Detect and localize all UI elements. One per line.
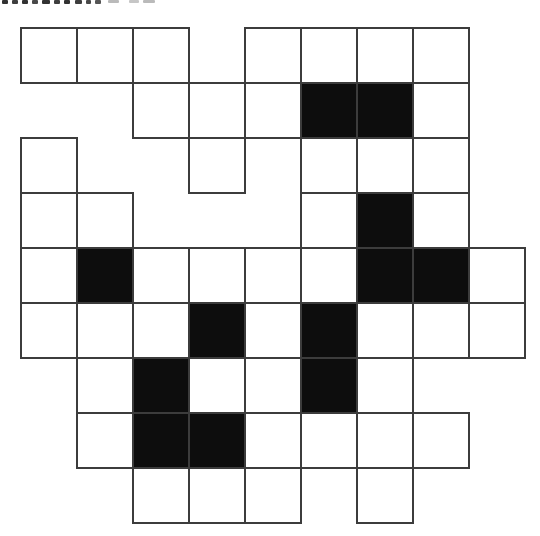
grid-cell-r4c0-white[interactable] [21, 248, 77, 303]
grid-cell-r1c4-white[interactable] [245, 83, 301, 138]
grid-cell-r3c7-white[interactable] [413, 193, 469, 248]
grid-cell-r7c2-black [133, 413, 189, 468]
grid-cell-r5c5-black [301, 303, 357, 358]
grid-cell-r1c7-white[interactable] [413, 83, 469, 138]
grid-cell-r7c3-black [189, 413, 245, 468]
grid-cell-r8c3-white[interactable] [189, 468, 245, 523]
grid-cell-r2c0-white[interactable] [21, 138, 77, 193]
grid-cell-r2c6-white[interactable] [357, 138, 413, 193]
grid-cell-r0c0-white[interactable] [21, 28, 77, 83]
grid-cell-r8c6-white[interactable] [357, 468, 413, 523]
grid-cell-r5c2-white[interactable] [133, 303, 189, 358]
grid-cell-r7c5-white[interactable] [301, 413, 357, 468]
grid-cell-r7c4-white[interactable] [245, 413, 301, 468]
grid-cell-r4c6-black [357, 248, 413, 303]
grid-cell-r6c4-white[interactable] [245, 358, 301, 413]
grid-cell-r5c3-black [189, 303, 245, 358]
grid-cell-r7c1-white[interactable] [77, 413, 133, 468]
grid-cell-r2c7-white[interactable] [413, 138, 469, 193]
grid-cell-r4c3-white[interactable] [189, 248, 245, 303]
grid-cell-r8c2-white[interactable] [133, 468, 189, 523]
grid-cell-r5c6-white[interactable] [357, 303, 413, 358]
grid-cell-r3c5-white[interactable] [301, 193, 357, 248]
grid-cell-r0c4-white[interactable] [245, 28, 301, 83]
grid-cell-r4c5-white[interactable] [301, 248, 357, 303]
grid-cell-r6c2-black [133, 358, 189, 413]
grid-cell-r0c5-white[interactable] [301, 28, 357, 83]
grid-cell-r4c7-black [413, 248, 469, 303]
grid-cell-r0c6-white[interactable] [357, 28, 413, 83]
grid-cell-r4c8-white[interactable] [469, 248, 525, 303]
grid-cell-r7c7-white[interactable] [413, 413, 469, 468]
grid-cell-r4c2-white[interactable] [133, 248, 189, 303]
grid-cell-r8c4-white[interactable] [245, 468, 301, 523]
grid-cell-r3c0-white[interactable] [21, 193, 77, 248]
grid-cell-r5c7-white[interactable] [413, 303, 469, 358]
grid-cell-r3c6-black [357, 193, 413, 248]
page: { "page": { "background_color": "#ffffff… [0, 0, 540, 536]
grid-cell-r5c1-white[interactable] [77, 303, 133, 358]
grid-cell-r2c3-white[interactable] [189, 138, 245, 193]
grid-cell-r3c1-white[interactable] [77, 193, 133, 248]
grid-cell-r1c6-black [357, 83, 413, 138]
grid-cell-r2c5-white[interactable] [301, 138, 357, 193]
grid-cell-r4c1-black [77, 248, 133, 303]
grid-cell-r0c1-white[interactable] [77, 28, 133, 83]
grid-cell-r0c7-white[interactable] [413, 28, 469, 83]
grid-cell-r0c2-white[interactable] [133, 28, 189, 83]
grid-cell-r5c0-white[interactable] [21, 303, 77, 358]
grid-cell-r6c1-white[interactable] [77, 358, 133, 413]
grid-cell-r1c3-white[interactable] [189, 83, 245, 138]
puzzle-grid [0, 0, 540, 536]
grid-cell-r6c6-white[interactable] [357, 358, 413, 413]
grid-cell-r1c5-black [301, 83, 357, 138]
grid-cell-r6c3-white[interactable] [189, 358, 245, 413]
grid-cell-r1c2-white[interactable] [133, 83, 189, 138]
grid-cell-r4c4-white[interactable] [245, 248, 301, 303]
grid-cell-r5c4-white[interactable] [245, 303, 301, 358]
grid-cell-r7c6-white[interactable] [357, 413, 413, 468]
grid-cell-r6c5-black [301, 358, 357, 413]
grid-cell-r5c8-white[interactable] [469, 303, 525, 358]
